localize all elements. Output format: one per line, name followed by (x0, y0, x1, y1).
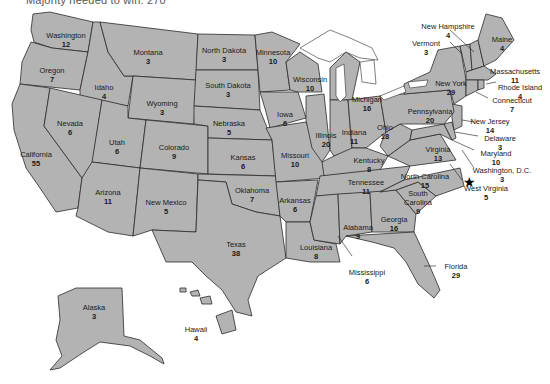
label-west-virginia: West Virginia5 (464, 184, 508, 202)
label-south-dakota: South Dakota3 (205, 81, 250, 99)
label-north-dakota: North Dakota3 (202, 46, 246, 64)
label-massachusetts: Massachusetts11 (490, 67, 540, 85)
label-dc: Washington, D.C.3 (473, 166, 532, 184)
label-california: California55 (20, 150, 52, 168)
label-montana: Montana3 (133, 48, 162, 66)
label-alaska: Alaska3 (83, 303, 106, 321)
label-new-york: New York29 (435, 79, 467, 97)
state-mississippi[interactable] (310, 194, 340, 244)
label-kansas: Kansas6 (230, 153, 255, 171)
leader-connecticut (476, 92, 488, 98)
label-alabama: Alabama9 (343, 223, 373, 241)
label-nebraska: Nebraska5 (213, 119, 245, 137)
label-ohio: Ohio18 (377, 123, 393, 141)
label-utah: Utah6 (109, 138, 125, 156)
label-texas: Texas38 (226, 240, 246, 258)
label-louisiana: Louisiana8 (300, 243, 332, 261)
label-mississippi: Mississippi6 (349, 268, 385, 286)
label-south-carolina: SouthCarolina9 (404, 189, 432, 216)
label-wyoming: Wyoming3 (146, 99, 177, 117)
state-florida[interactable] (346, 232, 440, 298)
label-north-carolina: North Carolina15 (401, 172, 449, 190)
label-arizona: Arizona11 (95, 188, 120, 206)
label-missouri: Missouri10 (281, 151, 309, 169)
label-oregon: Oregon7 (39, 66, 64, 84)
label-hawaii: Hawaii4 (185, 325, 208, 343)
lake-huron (360, 60, 376, 84)
label-oklahoma: Oklahoma7 (235, 186, 269, 204)
label-pennsylvania: Pennsylvania20 (408, 107, 453, 125)
lake-superior (300, 30, 378, 62)
state-alaska[interactable] (50, 288, 164, 370)
label-michigan: Michigan16 (352, 95, 382, 113)
label-new-hampshire: New Hampshire4 (421, 22, 474, 40)
label-washington: Washington12 (46, 31, 85, 49)
label-florida: Florida29 (445, 262, 468, 280)
label-wisconsin: Wisconsin10 (293, 75, 327, 93)
label-new-mexico: New Mexico5 (146, 198, 187, 216)
label-iowa: Iowa6 (277, 110, 293, 128)
label-tennessee: Tennessee11 (348, 178, 384, 196)
label-vermont: Vermont3 (412, 39, 440, 57)
label-kentucky: Kentucky8 (354, 156, 385, 174)
label-virginia: Virginia13 (426, 145, 451, 163)
label-maine: Maine4 (492, 35, 512, 53)
lake-michigan (336, 64, 346, 102)
label-new-jersey: New Jersey14 (470, 117, 509, 135)
label-georgia: Georgia16 (381, 215, 408, 233)
label-idaho: Idaho4 (95, 83, 114, 101)
label-nevada: Nevada6 (57, 119, 83, 137)
label-delaware: Delaware3 (484, 134, 516, 152)
label-arkansas: Arkansas6 (279, 196, 310, 214)
state-rhode-island[interactable] (478, 80, 484, 90)
label-illinois: Illinois20 (316, 131, 337, 149)
label-rhode-island: Rhode Island4 (498, 83, 542, 101)
state-connecticut[interactable] (466, 80, 478, 96)
label-colorado: Colorado9 (159, 143, 189, 161)
label-indiana: Indiana11 (342, 128, 367, 146)
leader-maryland (452, 140, 474, 150)
label-minnesota: Minnesota10 (256, 48, 291, 66)
